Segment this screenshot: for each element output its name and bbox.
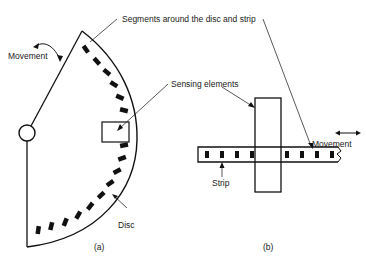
disc-sensing-element	[102, 122, 129, 142]
disc-arc	[27, 31, 137, 247]
segments-label: Segments around the disc and strip	[122, 14, 256, 24]
movement-label-a: Movement	[8, 51, 48, 61]
disc-figure	[19, 31, 137, 247]
movement-label-b: Movement	[312, 139, 352, 149]
caption-a: (a)	[94, 242, 105, 252]
strip-torn-edge	[337, 147, 341, 162]
encoder-diagram: Segments around the disc and strip Movem…	[0, 0, 366, 267]
caption-b: (b)	[263, 242, 274, 252]
arrowhead-icon	[57, 55, 63, 62]
strip-label: Strip	[212, 178, 230, 188]
arrowhead-icon	[356, 131, 361, 136]
disc-label: Disc	[118, 220, 135, 230]
arrowhead-icon	[33, 43, 39, 49]
arrowhead-icon	[335, 131, 340, 136]
disc-segments	[35, 45, 128, 235]
disc-upper-edge	[31, 31, 82, 126]
pivot-circle	[19, 125, 35, 141]
sensing-label: Sensing elements	[171, 79, 239, 89]
leader-lines	[90, 19, 313, 208]
strip-sensing-element	[255, 98, 281, 192]
strip-segments	[205, 151, 334, 158]
